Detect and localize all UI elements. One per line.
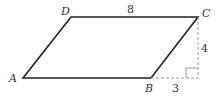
vertex-label-c: C xyxy=(202,7,211,20)
offset-label-3: 3 xyxy=(172,82,179,95)
height-label-4: 4 xyxy=(201,42,208,55)
right-angle-marker xyxy=(186,68,198,78)
vertex-label-d: D xyxy=(60,5,70,18)
vertex-label-b: B xyxy=(144,82,153,95)
side-label-8: 8 xyxy=(127,3,134,16)
parallelogram-abcd xyxy=(23,17,198,78)
parallelogram-diagram: D 8 C 4 A B 3 xyxy=(0,0,218,107)
vertex-label-a: A xyxy=(8,72,17,85)
